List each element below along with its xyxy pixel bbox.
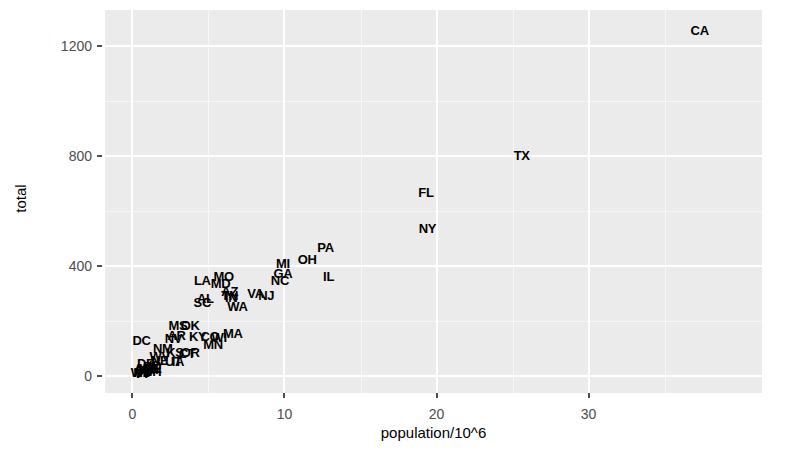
gridline-major-horizontal [105, 45, 762, 47]
x-axis-tick-mark [588, 393, 590, 398]
x-axis-tick-label: 10 [277, 406, 293, 422]
gridline-major-horizontal [105, 155, 762, 157]
x-axis-tick-label: 0 [128, 406, 136, 422]
data-point-label: NJ [258, 288, 274, 301]
gridline-major-horizontal [105, 375, 762, 377]
gridline-minor-horizontal [105, 101, 762, 102]
data-point-label: NY [419, 221, 436, 234]
y-axis-tick-mark [97, 265, 102, 267]
x-axis-tick-mark [436, 393, 438, 398]
data-point-label: TX [514, 148, 530, 161]
y-axis-title: total [12, 159, 29, 239]
gridline-major-horizontal [105, 265, 762, 267]
gridline-minor-horizontal [105, 321, 762, 322]
x-axis-tick-label: 20 [429, 406, 445, 422]
y-axis-tick-labels: 04008001200 [40, 10, 92, 393]
data-point-label: SC [194, 296, 211, 309]
x-axis-tick-mark [131, 393, 133, 398]
data-point-label: NC [271, 274, 289, 287]
y-axis-tick-label: 0 [84, 368, 92, 384]
data-point-label: MI [276, 256, 290, 269]
gridline-major-vertical [283, 10, 285, 393]
chart-root: CATXFLNYPAILOHGAMINCMOLAMDVATNAZNJINALSC… [0, 0, 796, 459]
y-axis-tick-label: 400 [69, 258, 92, 274]
y-axis-tick-label: 800 [69, 148, 92, 164]
y-axis-tick-label: 1200 [61, 38, 92, 54]
data-point-label: OH [298, 252, 317, 265]
gridline-major-vertical [588, 10, 590, 393]
x-axis-tick-label: 30 [581, 406, 597, 422]
y-axis-tick-mark [97, 375, 102, 377]
y-axis-tick-mark [97, 155, 102, 157]
data-point-label: WA [227, 299, 247, 312]
data-point-label: LA [194, 273, 211, 286]
gridline-minor-horizontal [105, 211, 762, 212]
data-point-label: IL [323, 270, 334, 283]
gridline-minor-vertical [665, 10, 666, 393]
data-point-label: FL [418, 185, 433, 198]
data-point-label: WY [131, 366, 151, 379]
data-point-label: KY [189, 329, 206, 342]
y-axis-tick-mark [97, 45, 102, 47]
data-point-label: DC [132, 334, 150, 347]
x-axis-tick-mark [283, 393, 285, 398]
gridline-minor-vertical [361, 10, 362, 393]
x-axis-title: population/10^6 [105, 424, 762, 441]
data-point-label: CA [691, 24, 709, 37]
plot-panel: CATXFLNYPAILOHGAMINCMOLAMDVATNAZNJINALSC… [105, 10, 762, 393]
gridline-major-vertical [436, 10, 438, 393]
gridline-minor-vertical [513, 10, 514, 393]
x-axis-tick-labels: 0102030 [105, 396, 762, 420]
data-point-label: PA [317, 240, 334, 253]
